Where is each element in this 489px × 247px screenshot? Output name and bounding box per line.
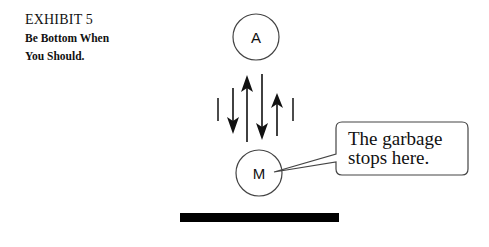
ground-bar — [180, 213, 339, 222]
node-a-label: A — [251, 29, 261, 46]
callout-line-2: stops here. — [348, 147, 429, 168]
up-arrow-short-icon — [271, 93, 283, 136]
speech-bubble: The garbage stops here. — [274, 122, 468, 175]
down-arrow-short-icon — [227, 88, 239, 134]
callout-line-1: The garbage — [348, 128, 442, 149]
down-arrow-long-icon — [256, 74, 268, 140]
node-a: A — [233, 14, 279, 60]
up-arrow-long-icon — [241, 75, 253, 142]
node-m: M — [236, 150, 282, 196]
node-m-label: M — [253, 165, 266, 182]
hierarchy-diagram: A M The garbage stops here. — [0, 0, 489, 247]
